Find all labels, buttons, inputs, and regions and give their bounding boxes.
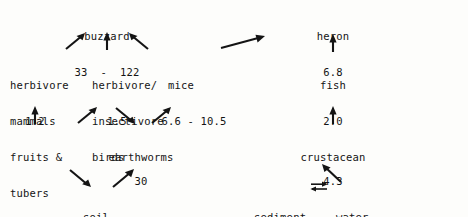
arrow-mice-to-heron [220, 34, 268, 52]
arrow-earthworms-to-birds [76, 105, 100, 125]
node-soil-label: soil [58, 211, 134, 217]
arrow-crustacean-to-fish [326, 105, 340, 125]
arrow-mice-to-buzzard [126, 31, 150, 51]
arrow-fish-to-heron [326, 33, 340, 53]
arrow-birds-to-buzzard [100, 31, 114, 51]
node-water-label: water [336, 211, 466, 217]
node-soil: soil 0.04 - 1.0 [58, 187, 134, 217]
node-fish-label: fish [298, 79, 368, 91]
arrow-soil-to-fruits [68, 167, 94, 189]
equilibrium-arrow-icon [309, 181, 329, 194]
node-water: water 0.040 - 0.043 mg.l-1 [336, 187, 466, 217]
arrow-earthworms-to-mice [150, 105, 174, 125]
arrow-birds-to-earthworms [114, 105, 138, 125]
food-chain-diagram: buzzard 33 - 122 heron 6.8 herbivore [0, 0, 468, 217]
arrow-fruits-to-mammals [28, 105, 42, 125]
node-herbivore-birds-label-line1: herbivore/ [92, 79, 164, 91]
arrow-mammals-to-buzzard [64, 31, 88, 51]
node-herbivore-mammals-label-line1: herbivore [10, 79, 82, 91]
node-mice-label: mice [168, 79, 214, 91]
node-fruits-tubers-label-line1: fruits & [10, 151, 90, 163]
arrow-soil-to-earthworms [110, 167, 136, 189]
node-sediment-label: sediment [254, 211, 320, 217]
